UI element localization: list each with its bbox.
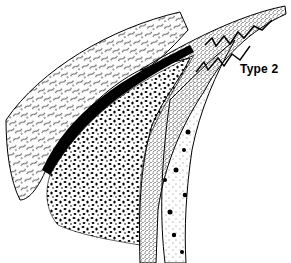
layered-tissue-illustration <box>0 0 291 263</box>
type-label: Type 2 <box>240 62 278 76</box>
illustration-canvas: Type 2 <box>0 0 291 263</box>
